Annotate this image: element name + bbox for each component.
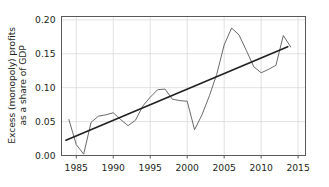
x-tick-labels: 1985199019952000200520102015: [65, 156, 310, 173]
x-tick-label: 2010: [249, 162, 273, 173]
plot-border: [62, 17, 306, 156]
chart-plot-area: 0.000.050.100.150.20 1985199019952000200…: [0, 0, 329, 187]
y-tick-label: 0.15: [35, 48, 56, 59]
x-tick-label: 2015: [286, 162, 310, 173]
x-tick-label: 1990: [102, 162, 126, 173]
x-tick-label: 1985: [65, 162, 89, 173]
data-line-path: [69, 28, 291, 154]
x-tick-label: 2000: [176, 162, 200, 173]
x-tick-label: 2005: [212, 162, 236, 173]
y-tick-labels: 0.000.050.100.150.20: [35, 14, 56, 161]
data-series-line: [69, 28, 291, 154]
x-tick-label: 1995: [139, 162, 163, 173]
y-tick-label: 0.20: [35, 14, 56, 25]
trend-line-path: [66, 47, 288, 141]
y-tick-label: 0.00: [35, 150, 56, 161]
y-tick-label: 0.10: [35, 82, 56, 93]
trend-line: [66, 47, 288, 141]
grid-lines: [62, 17, 306, 156]
y-tick-label: 0.05: [35, 116, 56, 127]
chart-figure: Excess (monopoly) profits as a share of …: [0, 0, 329, 187]
axes-frame: [62, 17, 306, 156]
